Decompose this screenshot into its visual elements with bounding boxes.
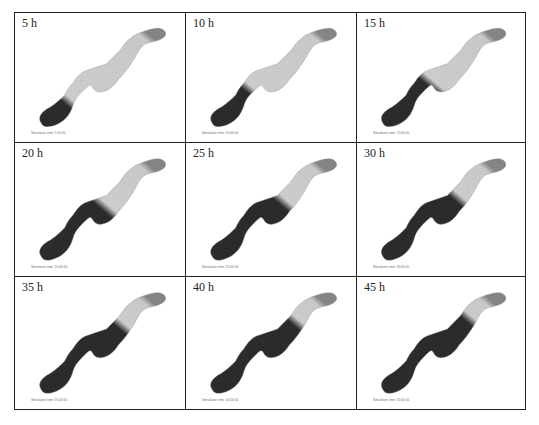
- snapshot-panel-15h: 15 h Simulation time: 15:00:00: [357, 13, 525, 143]
- lake-map: [186, 143, 356, 276]
- simulation-time-caption: Simulation time: 20:00:00: [31, 265, 67, 269]
- simulation-time-caption: Simulation time: 15:00:00: [373, 131, 409, 135]
- snapshot-panel-30h: 30 h Simulation time: 30:00:00: [357, 143, 525, 277]
- simulation-time-caption: Simulation time: 45:00:00: [373, 398, 409, 402]
- lake-map: [186, 277, 356, 409]
- simulation-time-caption: Simulation time: 30:00:00: [373, 265, 409, 269]
- snapshot-panel-45h: 45 h Simulation time: 45:00:00: [357, 277, 525, 409]
- lake-map: [186, 13, 356, 142]
- lake-map: [15, 13, 185, 142]
- time-label: 20 h: [22, 146, 43, 161]
- time-label: 10 h: [193, 16, 214, 31]
- time-label: 40 h: [193, 280, 214, 295]
- lake-map: [357, 143, 525, 276]
- simulation-time-caption: Simulation time: 25:00:00: [202, 265, 238, 269]
- simulation-time-caption: Simulation time: 35:00:00: [31, 398, 67, 402]
- snapshot-panel-40h: 40 h Simulation time: 40:00:00: [186, 277, 357, 409]
- simulation-time-caption: Simulation time: 5:00:00: [31, 131, 66, 135]
- time-label: 45 h: [364, 280, 385, 295]
- snapshot-panel-25h: 25 h Simulation time: 25:00:00: [186, 143, 357, 277]
- time-label: 5 h: [22, 16, 37, 31]
- lake-map: [357, 277, 525, 409]
- simulation-time-caption: Simulation time: 40:00:00: [202, 398, 238, 402]
- time-label: 35 h: [22, 280, 43, 295]
- snapshot-panel-35h: 35 h Simulation time: 35:00:00: [15, 277, 186, 409]
- time-label: 15 h: [364, 16, 385, 31]
- snapshot-panel-20h: 20 h Simulation time: 20:00:00: [15, 143, 186, 277]
- time-label: 25 h: [193, 146, 214, 161]
- snapshot-panel-10h: 10 h Simulation time: 10:00:00: [186, 13, 357, 143]
- lake-map: [15, 143, 185, 276]
- snapshot-grid: 5 h Simulation time: 5:00:00: [14, 12, 526, 410]
- snapshot-panel-5h: 5 h Simulation time: 5:00:00: [15, 13, 186, 143]
- lake-map: [357, 13, 525, 142]
- lake-map: [15, 277, 185, 409]
- simulation-time-caption: Simulation time: 10:00:00: [202, 131, 238, 135]
- time-label: 30 h: [364, 146, 385, 161]
